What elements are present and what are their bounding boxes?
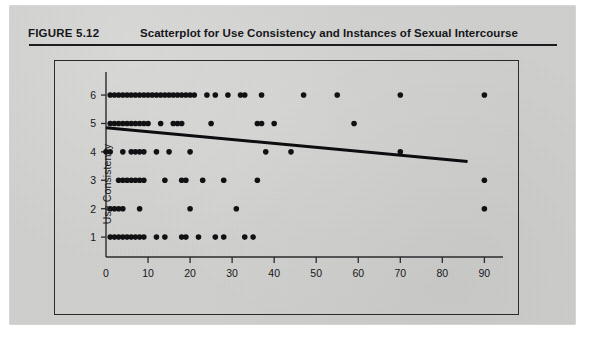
scatter-point	[213, 92, 219, 98]
scatter-point	[242, 92, 248, 98]
scatter-point	[183, 177, 189, 183]
y-axis-title: Use Consistency	[101, 109, 113, 259]
scatter-point	[221, 177, 227, 183]
scatter-point	[255, 177, 261, 183]
figure-caption: FIGURE 5.12 Scatterplot for Use Consiste…	[28, 22, 558, 44]
scatter-point	[141, 234, 147, 240]
scatter-point	[259, 92, 265, 98]
scatter-point	[259, 121, 265, 127]
x-tick-label: 50	[310, 267, 322, 279]
x-tick-label: 0	[103, 267, 109, 279]
y-tick-label: 6	[90, 89, 96, 101]
figure-title: Scatterplot for Use Consistency and Inst…	[140, 27, 518, 39]
scatter-point	[200, 177, 206, 183]
scatter-point	[120, 149, 126, 155]
regression-line	[106, 128, 468, 162]
scatter-point	[120, 206, 126, 212]
x-tick-label: 90	[479, 267, 491, 279]
scatter-point	[162, 177, 168, 183]
scatter-point	[398, 92, 404, 98]
scatter-point	[154, 234, 160, 240]
x-tick-label: 10	[142, 267, 154, 279]
y-tick-label: 1	[90, 231, 96, 243]
x-tick-label: 80	[437, 267, 449, 279]
x-tick-label: 60	[352, 267, 364, 279]
scatter-point	[187, 149, 193, 155]
scatter-point	[334, 92, 340, 98]
y-tick-label: 4	[90, 146, 96, 158]
scatter-point	[351, 121, 357, 127]
scatter-point	[263, 149, 269, 155]
scatter-point	[141, 177, 147, 183]
scatter-point	[166, 149, 172, 155]
scatter-point	[141, 149, 147, 155]
scatter-point	[234, 206, 240, 212]
scatterplot-svg: 1234560102030405060708090	[54, 60, 519, 315]
scatter-point	[196, 234, 202, 240]
x-tick-label: 20	[184, 267, 196, 279]
scatter-point	[208, 121, 214, 127]
scatter-point	[482, 92, 488, 98]
scatter-point	[137, 206, 143, 212]
figure-root: FIGURE 5.12 Scatterplot for Use Consiste…	[0, 0, 613, 345]
plot-canvas: 1234560102030405060708090 Use Consistenc…	[54, 60, 519, 315]
scatter-point	[158, 121, 164, 127]
scatter-point	[250, 234, 256, 240]
scatter-point	[145, 121, 151, 127]
figure-number-label: FIGURE 5.12	[28, 27, 140, 39]
scatter-point	[183, 234, 189, 240]
scatter-point	[301, 92, 307, 98]
scatter-point	[288, 149, 294, 155]
scatter-point	[191, 92, 197, 98]
x-tick-label: 40	[268, 267, 280, 279]
y-tick-label: 2	[90, 203, 96, 215]
scatter-point	[213, 234, 219, 240]
scatter-points	[103, 92, 487, 240]
scatter-point	[221, 234, 227, 240]
scatter-point	[482, 206, 488, 212]
scatter-point	[482, 177, 488, 183]
x-tick-label: 30	[226, 267, 238, 279]
x-tick-label: 70	[394, 267, 406, 279]
scatter-point	[162, 234, 168, 240]
scatter-point	[225, 92, 231, 98]
y-tick-label: 3	[90, 174, 96, 186]
scatter-point	[187, 206, 193, 212]
y-tick-label: 5	[90, 117, 96, 129]
scatter-point	[242, 234, 248, 240]
caption-divider	[29, 44, 557, 46]
scatter-point	[204, 92, 210, 98]
scatter-point	[154, 149, 160, 155]
scatter-point	[179, 121, 185, 127]
scatter-point	[271, 121, 277, 127]
